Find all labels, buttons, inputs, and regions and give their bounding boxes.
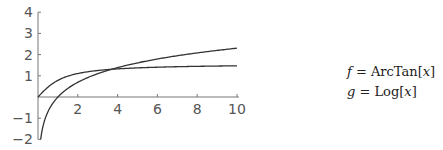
y-tick-label: −1 [12, 110, 33, 126]
curve-log [41, 48, 237, 139]
legend: f = ArcTan[x] g = Log[x] [347, 62, 435, 102]
curve-arctan [38, 66, 237, 97]
y-tick-label: 2 [24, 47, 33, 63]
legend-entry-f: f = ArcTan[x] [347, 62, 435, 82]
legend-g-eq: = Log[ [355, 84, 404, 99]
legend-f-close: ] [430, 64, 435, 79]
y-tick-label: 4 [24, 4, 33, 20]
y-tick-label: −2 [12, 131, 33, 147]
x-tick-label: 8 [193, 101, 202, 117]
x-tick-label: 6 [153, 101, 162, 117]
y-tick-label: 3 [24, 25, 33, 41]
curves [38, 48, 237, 139]
x-tick-label: 4 [113, 101, 122, 117]
legend-g-close: ] [412, 84, 417, 99]
y-tick-label: 1 [24, 68, 33, 84]
x-tick-label: 10 [228, 101, 246, 117]
x-tick-label: 2 [73, 101, 82, 117]
axes: 246810−2−11234 [12, 4, 246, 147]
legend-g-arg: x [404, 84, 411, 99]
legend-f-eq: = ArcTan[ [352, 64, 423, 79]
legend-f-arg: x [423, 64, 430, 79]
legend-entry-g: g = Log[x] [347, 82, 435, 102]
